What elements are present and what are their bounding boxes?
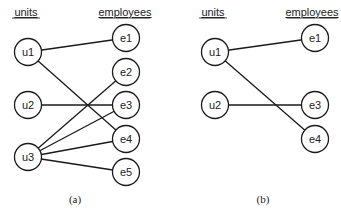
node-label: e1	[120, 32, 132, 44]
panel-a: unitsemployeesu1u2u3e1e2e3e4e5(a)	[12, 6, 152, 206]
node-label: e4	[309, 133, 321, 145]
node-label: e5	[120, 166, 132, 178]
node-e3: e3	[302, 92, 329, 119]
node-label: u3	[22, 151, 34, 163]
panel-b: unitsemployeesu1u2e1e3e4(b)	[199, 6, 339, 206]
node-label: u2	[209, 99, 221, 111]
node-label: u1	[209, 46, 221, 58]
node-label: e4	[120, 133, 132, 145]
node-label: u1	[22, 46, 34, 58]
node-u1: u1	[202, 39, 229, 66]
node-label: e3	[120, 99, 132, 111]
edge-u1-e4	[28, 52, 126, 139]
node-u2: u2	[202, 92, 229, 119]
node-e4: e4	[302, 126, 329, 153]
edge-u3-e4	[28, 139, 126, 157]
node-e4: e4	[113, 126, 140, 153]
units-header: units	[201, 6, 225, 18]
edge-u1-e1	[215, 38, 315, 52]
employees-header: employees	[285, 6, 339, 18]
edge-u3-e2	[28, 72, 126, 157]
units-header: units	[14, 6, 38, 18]
node-u2: u2	[15, 92, 42, 119]
node-u1: u1	[15, 39, 42, 66]
node-label: e3	[309, 99, 321, 111]
panel-caption: (b)	[257, 193, 270, 206]
node-u3: u3	[15, 144, 42, 171]
node-e5: e5	[113, 159, 140, 186]
employees-header: employees	[98, 6, 152, 18]
node-e2: e2	[113, 59, 140, 86]
edge-u3-e3	[28, 105, 126, 157]
edge-u1-e1	[28, 38, 126, 52]
node-label: e2	[120, 66, 132, 78]
bipartite-diagram: unitsemployeesu1u2u3e1e2e3e4e5(a)unitsem…	[0, 0, 341, 215]
node-label: u2	[22, 99, 34, 111]
edge-u3-e5	[28, 157, 126, 172]
node-label: e1	[309, 32, 321, 44]
node-e3: e3	[113, 92, 140, 119]
node-e1: e1	[113, 25, 140, 52]
edge-u1-e4	[215, 52, 315, 139]
node-e1: e1	[302, 25, 329, 52]
panel-caption: (a)	[69, 193, 82, 206]
